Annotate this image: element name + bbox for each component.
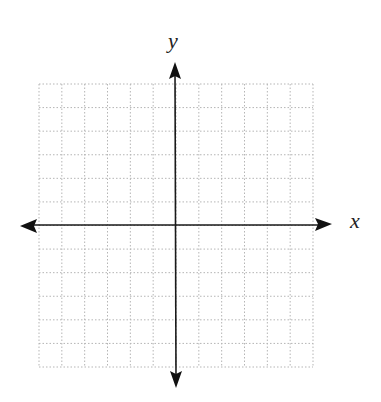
coordinate-plane: y x bbox=[0, 0, 381, 402]
y-axis-label: y bbox=[168, 30, 178, 52]
x-axis-left-arrow-icon bbox=[20, 219, 37, 233]
coordinate-plane-svg bbox=[0, 0, 381, 402]
y-axis-line bbox=[175, 72, 176, 378]
x-axis-label: x bbox=[350, 210, 360, 232]
